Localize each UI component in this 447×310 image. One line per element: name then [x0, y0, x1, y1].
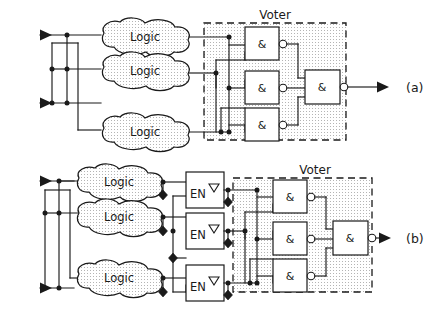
input-bus-a	[40, 35, 101, 130]
nand-gate-b1-label: &	[286, 191, 295, 204]
connection-diamond	[224, 238, 233, 248]
nand-gate-b2-label: &	[286, 233, 295, 246]
logic-block-a3-label: Logic	[130, 125, 160, 139]
inversion-bubble	[368, 234, 376, 242]
junction-dot	[219, 130, 224, 135]
junction-dot	[226, 188, 231, 193]
junction-dot	[50, 67, 55, 72]
junction-dot	[255, 281, 260, 286]
inversion-bubble	[279, 121, 287, 129]
input-arrow-a-top	[40, 30, 52, 41]
panel-b: Voter Logic Logic	[40, 163, 424, 301]
input-arrow-a-bottom	[40, 98, 52, 109]
junction-dot	[57, 179, 62, 184]
junction-dot	[248, 281, 253, 286]
inversion-bubble	[340, 83, 348, 91]
input-arrow-b-bottom	[40, 283, 52, 294]
logic-block-b2: Logic	[77, 199, 162, 237]
connection-diamond	[224, 290, 233, 300]
junction-dot	[255, 237, 260, 242]
junction-dot	[243, 229, 248, 234]
junction-dot	[65, 33, 70, 38]
junction-dot	[255, 188, 260, 193]
junction-dot	[227, 130, 232, 135]
junction-dot	[161, 180, 166, 185]
junction-dot	[65, 67, 70, 72]
enable-buffer-b2: EN	[186, 213, 224, 249]
nand-gate-a1-label: &	[258, 38, 267, 51]
junction-dot	[214, 71, 219, 76]
inversion-bubble	[279, 40, 287, 48]
logic-block-b1: Logic	[77, 164, 162, 202]
junction-dot	[65, 101, 70, 106]
enable-buffer-b1: EN	[186, 172, 224, 208]
inversion-bubble	[307, 235, 315, 243]
diagram-canvas: Voter Logic Logic	[0, 0, 447, 310]
nand-gate-b3-label: &	[286, 270, 295, 283]
nand-gate-a3-label: &	[258, 119, 267, 132]
panel-b-label: (b)	[406, 231, 424, 246]
junction-dot	[57, 211, 62, 216]
panel-a: Voter Logic Logic	[40, 8, 423, 152]
inversion-bubble	[307, 193, 315, 201]
enable-buffer-b2-label: EN	[190, 228, 206, 242]
logic-block-b1-label: Logic	[104, 175, 134, 189]
enable-buffer-b3-label: EN	[190, 280, 206, 294]
output-arrow-a	[377, 82, 389, 93]
inversion-bubble	[307, 272, 315, 280]
logic-block-a1-label: Logic	[130, 30, 160, 44]
nand-gate-a-out-label: &	[318, 81, 327, 94]
nand-gate-a2-label: &	[258, 82, 267, 95]
junction-dot	[227, 86, 232, 91]
connection-diamond	[169, 253, 178, 263]
enable-buffer-b3: EN	[186, 265, 224, 301]
junction-dot	[43, 211, 48, 216]
logic-block-b3-label: Logic	[104, 271, 134, 285]
inversion-bubble	[279, 84, 287, 92]
output-arrow-b	[379, 233, 391, 244]
junction-dot	[227, 35, 232, 40]
connection-diamond	[224, 197, 233, 207]
logic-block-a2-label: Logic	[130, 64, 160, 78]
logic-block-a2: Logic	[102, 52, 189, 91]
input-arrow-b-top	[40, 176, 52, 187]
nand-gate-b-out-label: &	[346, 232, 355, 245]
tmr-circuit-diagram: Voter Logic Logic	[0, 0, 447, 310]
junction-dot	[171, 229, 176, 234]
logic-block-a1: Logic	[102, 18, 189, 57]
enable-buffer-b1-label: EN	[190, 187, 206, 201]
junction-dot	[161, 276, 166, 281]
logic-block-b2-label: Logic	[104, 210, 134, 224]
logic-to-enable-wires-b	[162, 182, 186, 292]
voter-label-a: Voter	[259, 8, 291, 22]
junction-dot	[161, 215, 166, 220]
logic-block-a3: Logic	[102, 113, 189, 152]
junction-dot	[57, 286, 62, 291]
logic-block-b3: Logic	[77, 260, 162, 298]
voter-label-b: Voter	[299, 163, 331, 177]
panel-a-label: (a)	[406, 80, 423, 95]
junction-dot	[226, 281, 231, 286]
junction-dot	[226, 229, 231, 234]
